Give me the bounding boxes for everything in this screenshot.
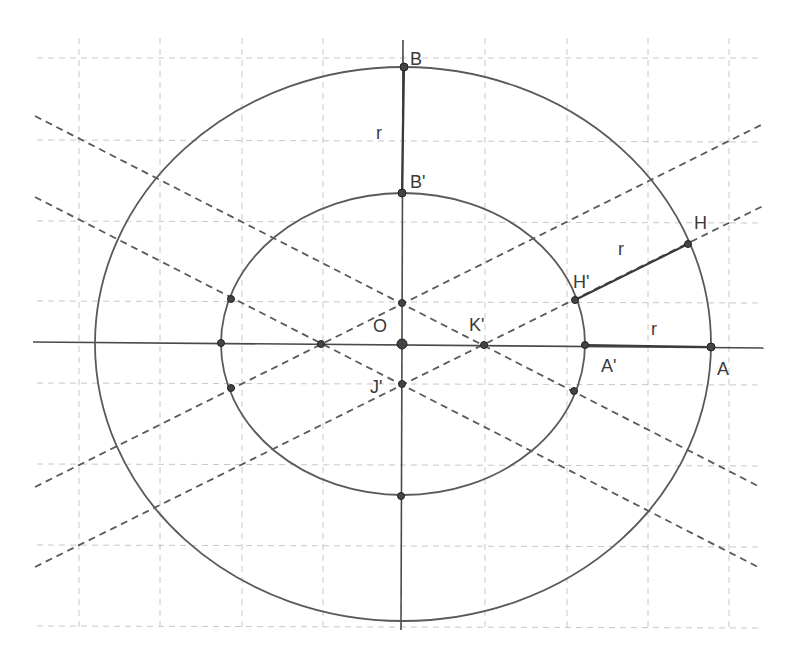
point-B-prime	[398, 189, 406, 197]
diagram-svg	[0, 0, 791, 660]
point-H-prime	[572, 297, 579, 304]
point-A-prime	[582, 342, 589, 349]
point-upper-axis	[399, 300, 406, 307]
points	[218, 63, 716, 500]
point-inner-upper-left	[228, 296, 235, 303]
label-r-vertical: r	[376, 124, 382, 142]
dashed-line-1	[35, 116, 760, 487]
label-r-oblique: r	[618, 240, 624, 258]
point-inner-lower-right	[571, 388, 578, 395]
label-B: B	[410, 50, 422, 68]
label-J-prime: J'	[370, 378, 382, 396]
segment-HH-prime	[575, 244, 688, 300]
point-inner-left	[218, 340, 225, 347]
point-J-prime	[399, 381, 406, 388]
label-r-horizontal: r	[651, 320, 657, 338]
point-A	[707, 343, 715, 351]
label-H-prime: H'	[573, 273, 589, 291]
point-K-prime	[481, 342, 488, 349]
point-B	[400, 63, 408, 71]
point-lower-inner	[398, 493, 405, 500]
diagram-canvas: B r B' O K' J' H r H' r A' A	[0, 0, 791, 660]
point-inner-lower-left	[228, 385, 235, 392]
label-A: A	[717, 360, 729, 378]
point-O	[397, 339, 407, 349]
label-B-prime: B'	[410, 173, 425, 191]
label-H: H	[694, 214, 707, 232]
label-O: O	[373, 317, 387, 335]
label-A-prime: A'	[601, 357, 616, 375]
point-H	[685, 241, 692, 248]
label-K-prime: K'	[469, 316, 484, 334]
point-K	[318, 341, 325, 348]
